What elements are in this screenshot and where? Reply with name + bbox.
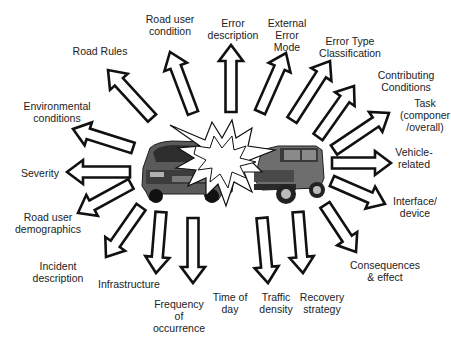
label-frequency-of-occurrence: Frequency of occurrence [153, 298, 205, 334]
label-interface-device: Interface/ device [393, 195, 437, 219]
label-external-error-mode: External Error Mode [268, 17, 307, 53]
label-recovery-strategy: Recovery strategy [300, 291, 344, 315]
label-road-rules: Road Rules [73, 45, 128, 57]
label-severity: Severity [21, 167, 59, 179]
crash-factors-diagram: Road Rules Road user condition Error des… [0, 0, 451, 345]
label-road-user-condition: Road user condition [146, 13, 194, 37]
label-vehicle-related: Vehicle- related [395, 146, 432, 170]
label-road-user-demographics: Road user demographics [15, 211, 81, 235]
label-error-description: Error description [208, 17, 259, 41]
label-environmental-conditions: Environmental conditions [23, 100, 90, 124]
label-contributing-conditions: Contributing Conditions [378, 69, 435, 93]
label-error-type-classification: Error Type Classification [319, 35, 381, 59]
label-incident-description: Incident description [33, 260, 84, 284]
label-consequences-effect: Consequences & effect [350, 259, 420, 283]
label-traffic-density: Traffic density [259, 291, 292, 315]
label-task: Task (componer /overall) [400, 97, 450, 133]
label-time-of-day: Time of day [213, 291, 248, 315]
label-infrastructure: Infrastructure [98, 278, 160, 290]
